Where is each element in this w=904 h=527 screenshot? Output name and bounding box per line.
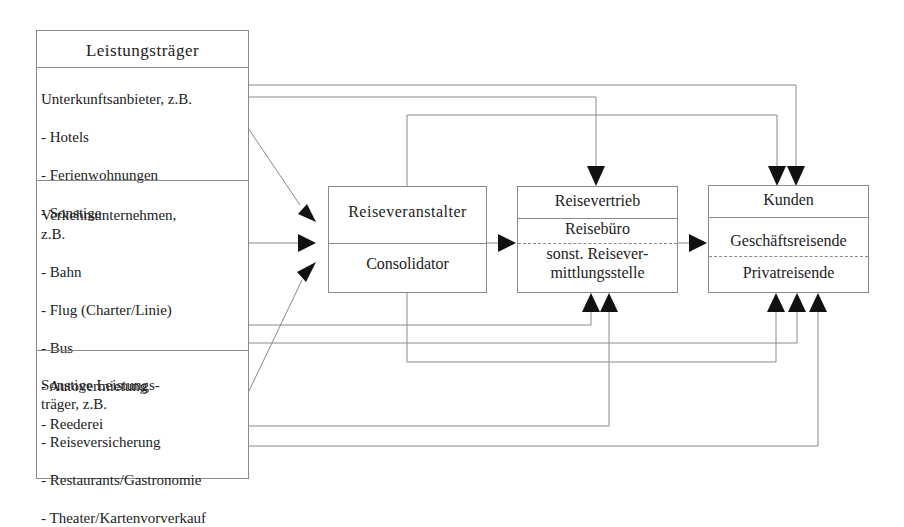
travel-agency-label: Reisebüro: [518, 220, 677, 238]
group-heading: Unterkunftsanbieter, z.B.: [41, 90, 248, 109]
distribution-title: Reisevertrieb: [518, 192, 677, 210]
list-item: - Restaurants/Gastronomie: [41, 471, 248, 490]
providers-title: Leistungsträger: [37, 41, 248, 61]
list-item: - Reiseversicherung: [41, 433, 248, 452]
operator-box: Reiseveranstalter Consolidator: [328, 186, 487, 293]
divider: [329, 243, 486, 244]
operator-title: Reiseveranstalter: [329, 203, 486, 221]
divider: [37, 180, 248, 181]
list-item: - Ferienwohnungen: [41, 166, 248, 185]
other-agency-label: sonst. Reisever- mittlungsstelle: [518, 244, 677, 282]
list-item: - Hotels: [41, 128, 248, 147]
divider: [37, 67, 248, 68]
customers-title: Kunden: [709, 191, 868, 209]
divider: [518, 218, 677, 219]
list-item: - Theater/Kartenvorverkauf: [41, 509, 248, 527]
arrow-head-icon: [297, 262, 316, 282]
consolidator-label: Consolidator: [329, 255, 486, 273]
group-heading: Verkehrsunternehmen, z.B.: [41, 206, 248, 244]
group-heading: Sonstige Leistungs- träger, z.B.: [41, 376, 248, 414]
business-travelers-label: Geschäftsreisende: [709, 232, 868, 250]
list-item: - Flug (Charter/Linie): [41, 301, 248, 320]
customers-box: Kunden Geschäftsreisende Privatreisende: [708, 185, 869, 293]
arrow-head-icon: [298, 234, 316, 252]
private-travelers-label: Privatreisende: [709, 264, 868, 282]
provider-group-other: Sonstige Leistungs- träger, z.B. - Reise…: [37, 357, 248, 527]
divider: [709, 217, 868, 218]
divider: [37, 350, 248, 351]
arrow-head-icon: [298, 204, 316, 222]
providers-box: Leistungsträger Unterkunftsanbieter, z.B…: [36, 30, 249, 479]
list-item: - Bus: [41, 339, 248, 358]
distribution-box: Reisevertrieb Reisebüro sonst. Reisever-…: [517, 186, 678, 293]
list-item: - Bahn: [41, 263, 248, 282]
dashed-divider: [709, 256, 868, 257]
